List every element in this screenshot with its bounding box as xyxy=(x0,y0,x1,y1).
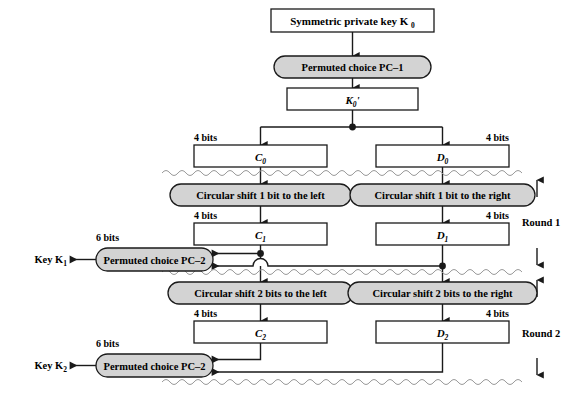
d1-label: D xyxy=(436,229,445,241)
shift-right-1-label: Circular shift 1 bit to the right xyxy=(374,190,511,201)
d1-bits-label: 4 bits xyxy=(486,210,509,221)
key1-bits-label: 6 bits xyxy=(96,232,119,243)
node-d0: D0 xyxy=(376,145,509,167)
node-pc2-round1: Permuted choice PC–2 xyxy=(96,248,213,271)
c2-sub: 2 xyxy=(261,333,266,342)
d2-sub: 2 xyxy=(444,333,449,342)
d2-bits-label: 4 bits xyxy=(486,308,509,319)
key2-output-label: Key K2 xyxy=(34,360,67,374)
d0-sub: 0 xyxy=(445,157,449,166)
node-shift-left-2: Circular shift 2 bits to the left xyxy=(168,282,353,304)
node-shift-right-1: Circular shift 1 bit to the right xyxy=(350,184,535,206)
c0-bits-label: 4 bits xyxy=(194,132,217,143)
c0-sub: 0 xyxy=(262,157,266,166)
wire-c2-to-pc2r2 xyxy=(212,343,261,360)
node-d1: D1 xyxy=(376,223,509,245)
node-shift-left-1: Circular shift 1 bit to the left xyxy=(170,184,351,206)
shift-right-2-label: Circular shift 2 bits to the right xyxy=(372,288,513,299)
pc1-label: Permuted choice PC–1 xyxy=(301,62,403,73)
node-k0-prime: K0' xyxy=(287,88,418,110)
pc2-round2-label: Permuted choice PC–2 xyxy=(103,361,205,372)
node-c0: C0 xyxy=(194,145,327,167)
node-symmetric-private-key: Symmetric private key K 0 xyxy=(271,9,434,32)
wavy-separator-3 xyxy=(162,380,522,385)
wavy-separator-1 xyxy=(162,171,522,176)
node-pc1: Permuted choice PC–1 xyxy=(274,56,431,78)
c1-sub: 1 xyxy=(262,235,266,244)
junction-dot-k0prime xyxy=(349,124,356,131)
wire-d1-to-pc2r1-with-bridge xyxy=(212,259,443,267)
d2-label: D xyxy=(436,327,445,339)
d0-bits-label: 4 bits xyxy=(486,132,509,143)
key1-output-label: Key K1 xyxy=(34,254,67,268)
shift-left-2-label: Circular shift 2 bits to the left xyxy=(194,288,327,299)
key-in-label: Symmetric private key K xyxy=(290,15,409,27)
shift-left-1-label: Circular shift 1 bit to the left xyxy=(196,190,325,201)
wavy-separator-2 xyxy=(162,270,522,275)
node-pc2-round2: Permuted choice PC–2 xyxy=(96,354,213,377)
k0prime-tick: ' xyxy=(357,94,360,106)
c1-bits-label: 4 bits xyxy=(194,210,217,221)
node-c1: C1 xyxy=(194,223,327,245)
key-in-sub: 0 xyxy=(411,21,415,30)
c2-bits-label: 4 bits xyxy=(194,308,217,319)
d1-sub: 1 xyxy=(445,235,449,244)
diagram-canvas: Symmetric private key K 0 Permuted choic… xyxy=(0,0,571,405)
node-shift-right-2: Circular shift 2 bits to the right xyxy=(348,282,537,304)
des-key-schedule-diagram: Symmetric private key K 0 Permuted choic… xyxy=(0,0,571,405)
round-2-label: Round 2 xyxy=(522,328,560,339)
d0-label: D xyxy=(436,151,445,163)
round-1-label: Round 1 xyxy=(522,217,560,228)
wire-d2-to-pc2r2 xyxy=(212,343,443,372)
pc2-round1-label: Permuted choice PC–2 xyxy=(103,255,205,266)
key2-bits-label: 6 bits xyxy=(96,338,119,349)
node-c2: C2 xyxy=(194,321,327,343)
node-d2: D2 xyxy=(376,321,509,343)
